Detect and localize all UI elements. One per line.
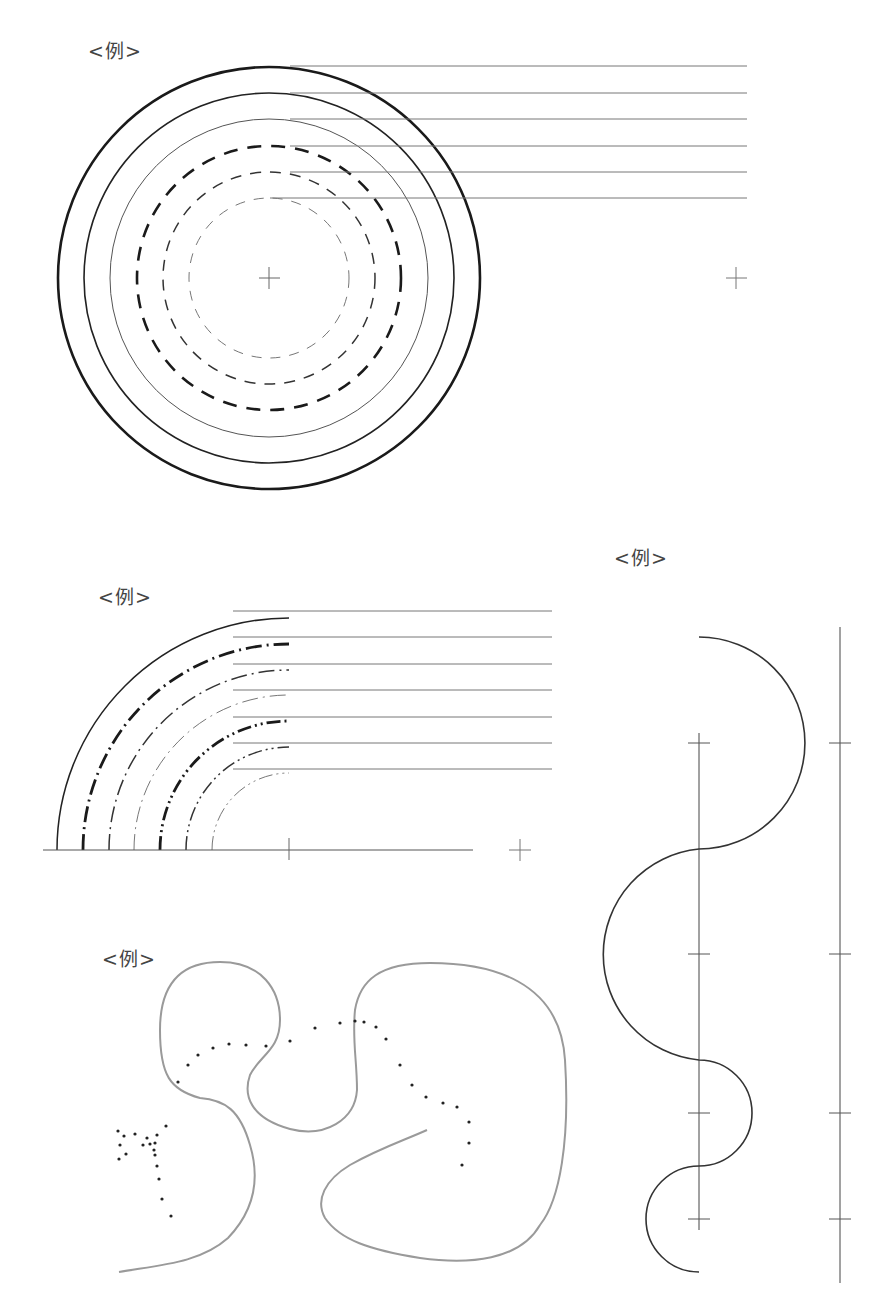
arc-medium-dash-dot (109, 670, 289, 850)
path-dot (313, 1026, 316, 1029)
path-dot (196, 1053, 199, 1056)
path-dot (118, 1143, 121, 1146)
path-dot (244, 1043, 247, 1046)
arc-thick-dash-dot (83, 644, 289, 850)
leader-lines (270, 66, 747, 198)
path-dot (133, 1132, 136, 1135)
path-dot (122, 1134, 125, 1137)
figure-concentric-circles (58, 66, 747, 489)
path-dot (152, 1148, 155, 1151)
path-dot (155, 1164, 158, 1167)
reference-cross-icon (726, 267, 747, 289)
path-dot (153, 1153, 156, 1156)
path-dot (398, 1063, 401, 1066)
path-dot (424, 1095, 427, 1098)
path-dot (410, 1083, 413, 1086)
path-dot (374, 1025, 377, 1028)
reference-cross-icon (509, 839, 531, 861)
path-dot (467, 1120, 470, 1123)
arc-solid (57, 618, 289, 850)
drawing-canvas (0, 0, 884, 1311)
path-dot (460, 1163, 463, 1166)
path-dot (141, 1143, 144, 1146)
path-dot (164, 1124, 167, 1127)
path-dot (288, 1039, 291, 1042)
path-dot (211, 1046, 214, 1049)
tick-crosses (688, 743, 851, 1219)
path-dot (227, 1042, 230, 1045)
center-cross-icon (259, 267, 280, 289)
figure-s-curve (603, 627, 851, 1283)
path-dot (160, 1197, 163, 1200)
path-dot (148, 1142, 151, 1145)
path-dot (338, 1021, 341, 1024)
path-dot (155, 1133, 158, 1136)
path-dot (176, 1080, 179, 1083)
path-dot (117, 1157, 120, 1160)
path-dot (384, 1037, 387, 1040)
path-dot (362, 1020, 365, 1023)
dotted-path (116, 1019, 470, 1217)
arc-thin-two-dot (212, 773, 289, 850)
path-dot (186, 1063, 189, 1066)
path-dot (353, 1019, 356, 1022)
path-dot (455, 1105, 458, 1108)
path-dot (124, 1152, 127, 1155)
path-dot (264, 1044, 267, 1047)
figure-quarter-arcs (43, 611, 552, 861)
arc-thin-dash-dot (134, 695, 289, 850)
path-dot (145, 1136, 148, 1139)
path-dot (169, 1214, 172, 1217)
arc-medium-two-dot (186, 747, 289, 850)
freehand-curve (119, 962, 566, 1272)
path-dot (467, 1141, 470, 1144)
figure-freehand (116, 962, 566, 1272)
path-dot (441, 1101, 444, 1104)
path-dot (157, 1177, 160, 1180)
path-dot (153, 1141, 156, 1144)
path-dot (116, 1129, 119, 1132)
leader-lines (233, 611, 552, 769)
